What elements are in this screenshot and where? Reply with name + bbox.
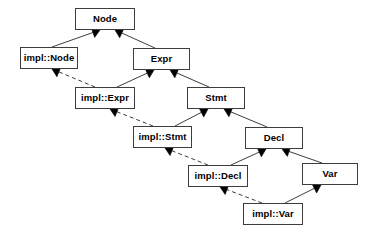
class-box-label: Stmt: [205, 93, 227, 103]
class-box-label: impl::Expr: [81, 93, 129, 103]
edge-line: [172, 151, 208, 165]
edge-line: [117, 73, 147, 87]
edge-impl_decl-to-decl: [231, 147, 266, 165]
edge-line: [122, 33, 155, 48]
edge-line: [289, 151, 322, 163]
class-box-node[interactable]: Node: [75, 8, 135, 30]
class-box-label: impl::Var: [252, 209, 294, 219]
edge-impl_expr-to-expr: [117, 68, 154, 87]
class-box-var[interactable]: Var: [302, 163, 358, 185]
edge-line: [285, 188, 314, 203]
edge-line: [177, 73, 209, 87]
edge-impl_expr-to-impl_node: [52, 67, 95, 87]
class-box-label: impl::Stmt: [139, 132, 187, 142]
class-box-label: impl::Node: [24, 53, 75, 63]
edge-line: [227, 190, 262, 203]
edge-impl_var-to-impl_decl: [220, 185, 262, 203]
class-box-decl[interactable]: Decl: [245, 127, 303, 149]
edge-impl_node-to-node: [52, 28, 100, 47]
class-box-stmt[interactable]: Stmt: [187, 87, 245, 109]
edge-stmt-to-expr: [170, 68, 209, 87]
class-box-label: Decl: [264, 133, 284, 143]
class-box-label: Node: [93, 14, 117, 24]
edge-impl_stmt-to-stmt: [175, 108, 208, 126]
class-box-label: impl::Decl: [195, 171, 242, 181]
class-box-impl-stmt[interactable]: impl::Stmt: [133, 126, 192, 148]
class-box-label: Var: [322, 169, 337, 179]
edge-line: [59, 72, 95, 87]
edge-line: [117, 112, 153, 126]
class-box-impl-expr[interactable]: impl::Expr: [75, 87, 135, 109]
edge-impl_decl-to-impl_stmt: [165, 146, 208, 165]
class-box-impl-decl[interactable]: impl::Decl: [188, 165, 248, 187]
edge-line: [231, 152, 259, 165]
edge-line: [52, 33, 93, 47]
edge-impl_stmt-to-impl_expr: [110, 107, 153, 126]
edge-impl_var-to-var: [285, 184, 321, 203]
edge-expr-to-node: [115, 28, 155, 48]
class-box-label: Expr: [151, 54, 173, 64]
edge-line: [175, 112, 201, 126]
edge-line: [231, 112, 267, 127]
class-box-impl-node[interactable]: impl::Node: [20, 47, 78, 69]
edge-layer: [0, 0, 377, 234]
class-box-expr[interactable]: Expr: [133, 48, 190, 70]
uml-class-diagram: Nodeimpl::NodeExprimpl::ExprStmtimpl::St…: [0, 0, 377, 234]
edge-decl-to-stmt: [224, 107, 267, 127]
class-box-impl-var[interactable]: impl::Var: [243, 203, 303, 225]
edge-var-to-decl: [282, 147, 322, 163]
